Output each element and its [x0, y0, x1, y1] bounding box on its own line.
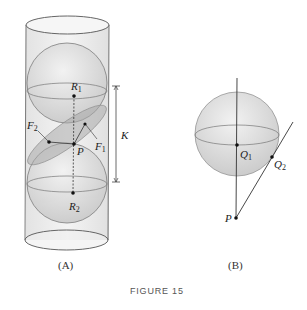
label-q2: Q2: [274, 158, 286, 172]
point-f2: [47, 140, 51, 144]
label-k: K: [120, 129, 129, 141]
point-p-b: [234, 216, 238, 220]
point-r2: [71, 191, 75, 195]
cylinder-top: [26, 16, 109, 34]
label-p-a: P: [76, 145, 84, 157]
point-f1: [83, 122, 86, 125]
point-r1: [72, 94, 76, 98]
panel-a: R1 R2 F1 F2 P K (A): [21, 16, 129, 272]
panel-label-a: (A): [58, 259, 74, 272]
point-p-a: [72, 142, 76, 146]
cylinder-left-edge: [25, 25, 26, 240]
panel-label-b: (B): [228, 259, 243, 272]
figure-15: R1 R2 F1 F2 P K (A) Q1 Q2 P (B) FIGURE 1…: [0, 0, 307, 310]
panel-b: Q1 Q2 P (B): [195, 78, 293, 272]
cylinder-bottom: [25, 230, 108, 250]
point-q1: [235, 143, 239, 147]
figure-caption: FIGURE 15: [130, 286, 184, 296]
label-p-b: P: [224, 212, 232, 224]
